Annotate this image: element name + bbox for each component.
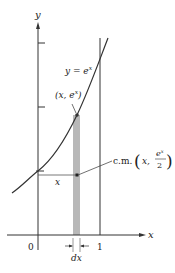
point-leader [72,104,76,113]
dx-left-arrow-icon [69,245,73,248]
curve-label: y = ex [64,64,93,76]
x-axis-label: x [148,229,154,240]
point-label: (x, ex) [55,88,82,100]
cm-prefix: c.m. [113,156,132,166]
origin-label: 0 [28,242,34,252]
x-tick-1-label: 1 [97,242,103,252]
cm-close-paren: ) [166,151,173,171]
cm-x: x, [142,156,150,166]
distance-label: x [55,177,60,187]
center-of-mass-diagram: y x 0 1 y = ex (x, ex) x c.m. ( x, ex 2 … [0,0,175,273]
cm-leader [78,161,112,175]
y-axis-label: y [34,9,41,20]
cm-denominator: 2 [157,161,162,170]
dx-label: dx [71,253,82,263]
exp-curve [12,38,108,193]
cm-numerator: ex [156,148,164,158]
y-axis-arrow-icon [36,22,40,29]
x-axis-arrow-icon [139,233,146,237]
cm-open-paren: ( [134,151,141,171]
curve-point [75,113,79,117]
dx-right-arrow-icon [80,245,84,248]
